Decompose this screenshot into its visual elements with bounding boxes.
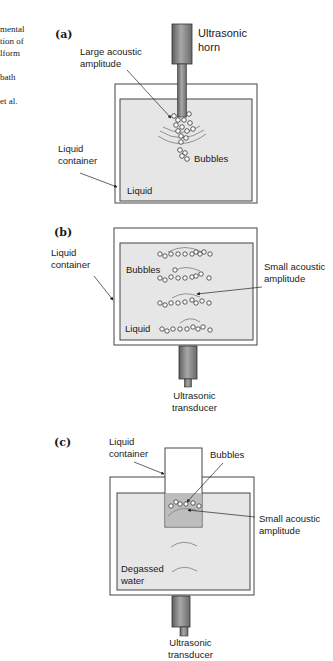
water-label-c: Degassed water bbox=[121, 563, 164, 587]
horn-head bbox=[172, 24, 192, 64]
panel-c bbox=[110, 448, 255, 636]
container-label-b: Liquid container bbox=[51, 247, 90, 271]
figure-graphics bbox=[0, 0, 333, 661]
transducer-tip bbox=[180, 627, 188, 636]
transducer-tip bbox=[185, 379, 192, 387]
panel-b-letter: (b) bbox=[54, 226, 72, 239]
transducer-body bbox=[179, 346, 197, 379]
bubbles-label-c: Bubbles bbox=[210, 449, 244, 461]
bubbles-label-b: Bubbles bbox=[126, 264, 160, 276]
liquid-label-b: Liquid bbox=[125, 323, 150, 335]
inner-liquid bbox=[166, 493, 202, 527]
horn-label: Ultrasonic horn bbox=[198, 26, 247, 54]
container-label-c: Liquid container bbox=[109, 436, 148, 460]
small-amplitude-label-c: Small acoustic amplitude bbox=[259, 513, 320, 537]
container-label-a: Liquid container bbox=[58, 143, 97, 167]
liquid-label-a: Liquid bbox=[127, 185, 152, 197]
panel-b bbox=[94, 228, 262, 387]
small-amplitude-label-b: Small acoustic amplitude bbox=[264, 261, 325, 285]
bubbles-label-a: Bubbles bbox=[194, 153, 228, 165]
transducer-label-b: Ultrasonic transducer bbox=[172, 390, 217, 414]
panel-a-letter: (a) bbox=[55, 28, 73, 41]
panel-c-letter: (c) bbox=[54, 436, 71, 449]
horn-rod bbox=[178, 64, 187, 117]
large-amplitude-label: Large acoustic amplitude bbox=[80, 46, 142, 70]
transducer-body bbox=[172, 596, 190, 627]
transducer-label-c: Ultrasonic transducer bbox=[168, 637, 213, 661]
